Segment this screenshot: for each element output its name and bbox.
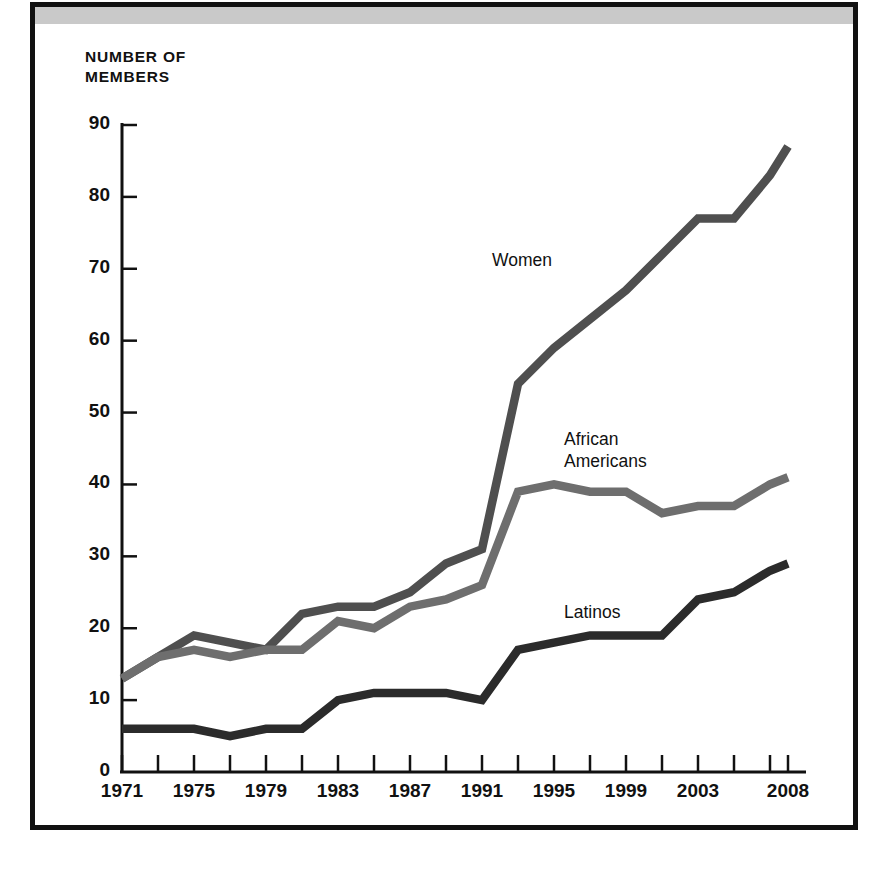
y-axis-tick-label: 10 <box>66 687 110 709</box>
figure-page: NUMBER OF MEMBERS 0102030405060708090 19… <box>0 0 890 873</box>
series-line-latinos <box>122 564 788 737</box>
y-axis-tick-label: 0 <box>66 759 110 781</box>
x-axis-tick-label: 1991 <box>442 780 522 802</box>
chart-series <box>122 147 788 736</box>
y-axis-tick-label: 20 <box>66 615 110 637</box>
x-axis-tick-label: 1983 <box>298 780 378 802</box>
y-axis-tick-label: 50 <box>66 400 110 422</box>
x-axis-tick-label: 1975 <box>154 780 234 802</box>
y-axis-tick-label: 90 <box>66 112 110 134</box>
x-axis-tick-label: 1979 <box>226 780 306 802</box>
y-axis-tick-label: 60 <box>66 328 110 350</box>
series-label-african-americans: African Americans <box>564 429 647 473</box>
series-label-women: Women <box>492 250 552 272</box>
x-axis-tick-label: 1971 <box>82 780 162 802</box>
x-axis-tick-label: 1995 <box>514 780 594 802</box>
series-line-african-americans <box>122 477 788 678</box>
y-axis-tick-label: 80 <box>66 184 110 206</box>
y-axis-tick-label: 40 <box>66 471 110 493</box>
chart-plot-area: NUMBER OF MEMBERS 0102030405060708090 19… <box>0 0 890 873</box>
y-axis-tick-label: 30 <box>66 543 110 565</box>
x-axis-tick-label: 1999 <box>586 780 666 802</box>
series-label-latinos: Latinos <box>564 602 620 624</box>
x-axis-tick-label: 2003 <box>658 780 738 802</box>
y-axis-tick-label: 70 <box>66 256 110 278</box>
x-axis-tick-label: 1987 <box>370 780 450 802</box>
line-chart-svg <box>0 0 890 873</box>
x-axis-tick-label: 2008 <box>748 780 828 802</box>
